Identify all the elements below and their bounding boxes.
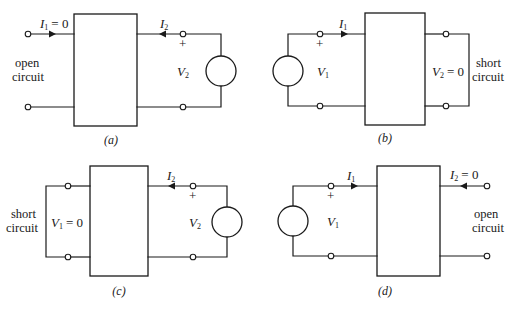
source-wire: [288, 34, 317, 56]
svg-text:V1: V1: [327, 214, 339, 230]
source-wire: [293, 186, 328, 206]
plus-sign: +: [327, 188, 334, 203]
source-wire: [293, 236, 328, 256]
two-port-network-box: [74, 14, 137, 126]
panel-caption: (b): [378, 131, 392, 145]
open-circuit-label: circuit: [472, 221, 504, 235]
svg-text:V1= 0: V1= 0: [51, 215, 83, 231]
source-wire: [196, 237, 227, 257]
voltage-source-icon: [278, 206, 308, 236]
terminal-icon: [25, 31, 31, 37]
source-wire: [196, 186, 227, 207]
panel-caption: (a): [104, 133, 118, 147]
terminal-icon: [484, 253, 490, 259]
svg-text:I2: I2: [159, 16, 168, 32]
terminal-icon: [180, 104, 186, 110]
plus-sign: +: [189, 188, 196, 203]
plus-sign: +: [316, 36, 323, 51]
svg-text:I1: I1: [338, 16, 347, 32]
short-circuit-label: short: [11, 207, 37, 221]
open-circuit-label: circuit: [12, 70, 44, 84]
voltage-source-icon: [206, 56, 236, 86]
svg-text:V2= 0: V2= 0: [432, 64, 464, 80]
panel-caption: (d): [378, 284, 392, 298]
source-wire: [186, 86, 221, 107]
source-wire: [186, 34, 221, 56]
svg-text:I1= 0: I1= 0: [39, 16, 68, 32]
panel-caption: (c): [112, 284, 125, 298]
panel-b: I1 + V1 V2= 0 short circuit (b): [273, 13, 504, 145]
terminal-icon: [317, 103, 323, 109]
terminal-icon: [443, 103, 449, 109]
terminal-icon: [65, 254, 71, 260]
terminal-icon: [65, 183, 71, 189]
voltage-source-icon: [212, 207, 242, 237]
svg-text:I2= 0: I2= 0: [449, 167, 478, 183]
terminal-icon: [484, 183, 490, 189]
svg-text:V2: V2: [189, 215, 201, 231]
panel-a: I1= 0 open circuit I2 + V2 (a): [12, 14, 236, 147]
two-port-network-box: [377, 166, 440, 276]
short-circuit-label: circuit: [6, 221, 38, 235]
svg-text:V1: V1: [317, 64, 329, 80]
open-circuit-label: open: [474, 207, 499, 221]
terminal-icon: [190, 254, 196, 260]
short-circuit-label: circuit: [472, 70, 504, 84]
terminal-icon: [25, 104, 31, 110]
plus-sign: +: [179, 36, 186, 51]
short-circuit-label: short: [476, 56, 502, 70]
current-arrow-icon: [49, 31, 56, 38]
panel-d: I1 + V1 I2= 0 open circuit (d): [278, 166, 504, 298]
voltage-source-icon: [273, 56, 303, 86]
current-arrow-icon: [460, 183, 467, 190]
two-port-network-box: [90, 166, 148, 276]
panel-c: short circuit V1= 0 I2 + V2 (c): [6, 166, 242, 298]
svg-text:I2: I2: [166, 168, 175, 184]
terminal-icon: [328, 253, 334, 259]
svg-text:V2: V2: [177, 64, 189, 80]
svg-text:I1: I1: [346, 168, 355, 184]
two-port-network-box: [365, 13, 425, 125]
open-circuit-label: open: [15, 56, 40, 70]
terminal-icon: [443, 31, 449, 37]
source-wire: [288, 86, 317, 106]
